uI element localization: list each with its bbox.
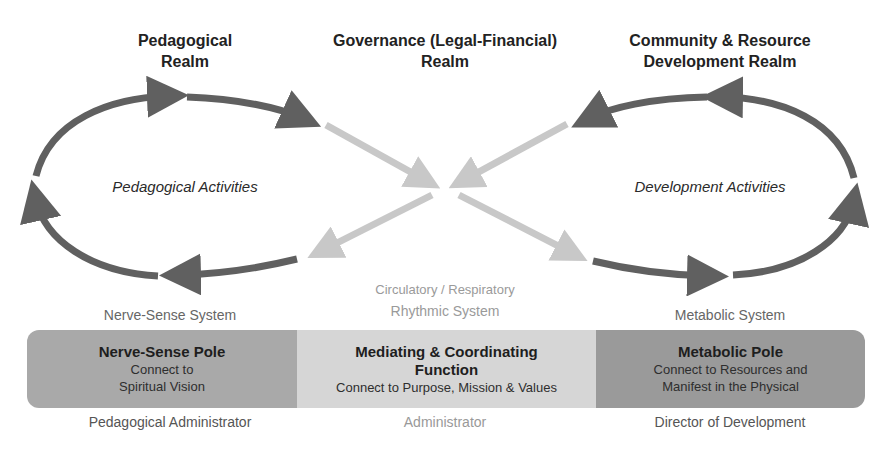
pedagogical-realm-line2: Realm	[95, 51, 275, 72]
arrow-center-ne	[464, 124, 567, 180]
community-realm-line1: Community & Resource	[610, 30, 830, 51]
nerve-sense-pole-sub1: Connect to	[131, 361, 194, 378]
governance-realm-title: Governance (Legal-Financial) Realm	[300, 30, 590, 72]
metabolic-pole: Metabolic Pole Connect to Resources and …	[596, 330, 865, 408]
arrow-left-top	[187, 97, 302, 118]
administrator-label: Administrator	[335, 414, 555, 430]
mediating-title-line2: Function	[415, 361, 478, 379]
nerve-sense-system-label: Nerve-Sense System	[60, 307, 280, 323]
mediating-title-line1: Mediating & Coordinating	[355, 343, 537, 361]
mediating-function: Mediating & Coordinating Function Connec…	[297, 330, 596, 408]
arrow-right-down	[722, 97, 854, 178]
pedagogical-realm-line1: Pedagogical	[95, 30, 275, 51]
arrow-right-top	[590, 97, 707, 118]
arrow-center-se	[459, 195, 572, 253]
arrow-left-bottom	[180, 259, 297, 275]
nerve-sense-pole-sub2: Spiritual Vision	[119, 378, 205, 395]
nerve-sense-pole-title: Nerve-Sense Pole	[99, 343, 226, 361]
development-activities-label: Development Activities	[600, 178, 820, 195]
pole-bar: Nerve-Sense Pole Connect to Spiritual Vi…	[27, 330, 865, 408]
arrow-left-down	[36, 200, 158, 276]
community-realm-title: Community & Resource Development Realm	[610, 30, 830, 72]
pedagogical-realm-title: Pedagogical Realm	[95, 30, 275, 72]
rhythmic-system-label: Rhythmic System	[335, 303, 555, 319]
arrow-right-bottom	[593, 261, 708, 276]
governance-realm-line2: Realm	[300, 51, 590, 72]
metabolic-pole-title: Metabolic Pole	[678, 343, 783, 361]
governance-realm-line1: Governance (Legal-Financial)	[300, 30, 590, 51]
arrow-right-up	[733, 203, 853, 275]
metabolic-pole-sub2: Manifest in the Physical	[662, 378, 799, 395]
arrow-center-nw	[326, 125, 425, 180]
arrow-center-sw	[323, 195, 432, 250]
metabolic-pole-sub1: Connect to Resources and	[654, 361, 808, 378]
metabolic-system-label: Metabolic System	[620, 307, 840, 323]
pedagogical-activities-label: Pedagogical Activities	[75, 178, 295, 195]
circulatory-respiratory-label: Circulatory / Respiratory	[335, 282, 555, 297]
mediating-sub: Connect to Purpose, Mission & Values	[336, 379, 557, 396]
pedagogical-administrator-label: Pedagogical Administrator	[40, 414, 300, 430]
community-realm-line2: Development Realm	[610, 51, 830, 72]
director-of-development-label: Director of Development	[610, 414, 850, 430]
arrow-left-up	[36, 96, 168, 176]
nerve-sense-pole: Nerve-Sense Pole Connect to Spiritual Vi…	[27, 330, 297, 408]
